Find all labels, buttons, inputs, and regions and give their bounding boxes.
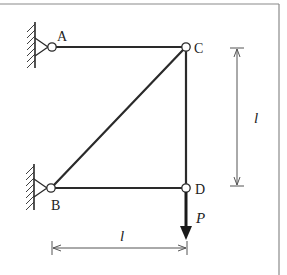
node-label-b: B xyxy=(51,198,60,213)
truss-members xyxy=(54,47,186,188)
node-b xyxy=(47,184,55,192)
node-c xyxy=(182,43,190,51)
pin-support-b-icon xyxy=(26,164,47,210)
horizontal-dimension-label: l xyxy=(120,228,124,244)
node-label-a: A xyxy=(57,29,68,44)
node-d xyxy=(182,184,190,192)
pin-support-a-icon xyxy=(27,22,48,68)
node-a xyxy=(48,43,56,51)
node-label-d: D xyxy=(195,182,205,197)
member-bc xyxy=(54,50,183,185)
node-label-c: C xyxy=(194,41,203,56)
load-arrow-icon xyxy=(180,192,192,240)
truss-diagram: A B C D P l l xyxy=(0,0,287,275)
vertical-dimension xyxy=(230,48,244,186)
vertical-dimension-label: l xyxy=(254,110,258,126)
load-label-p: P xyxy=(195,210,205,226)
